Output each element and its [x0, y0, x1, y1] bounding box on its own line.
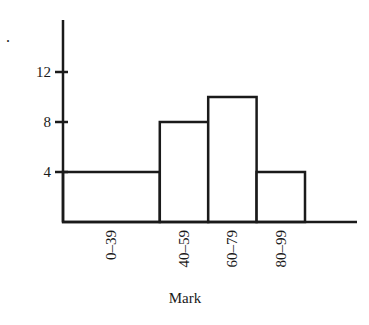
- histogram-bars: [63, 97, 305, 222]
- histogram-bar: [160, 122, 208, 222]
- x-category-label: 0–39: [103, 230, 119, 260]
- x-axis-category-labels: 0–3940–5960–7980–99: [103, 230, 288, 268]
- x-axis-title: Mark: [169, 290, 202, 306]
- x-category-label: 40–59: [176, 230, 192, 268]
- histogram-chart: . 4812 0–3940–5960–7980–99 Mark: [0, 0, 369, 325]
- histogram-bar: [208, 97, 256, 222]
- y-tick-label: 4: [44, 164, 52, 180]
- x-category-label: 80–99: [273, 230, 289, 268]
- histogram-bar: [63, 172, 160, 222]
- bullet-marker: .: [6, 28, 10, 45]
- histogram-bar: [257, 172, 305, 222]
- y-tick-label: 12: [36, 64, 51, 80]
- x-category-label: 60–79: [224, 230, 240, 268]
- y-tick-label: 8: [44, 114, 52, 130]
